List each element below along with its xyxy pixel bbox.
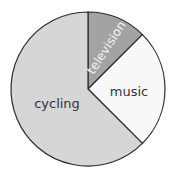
pie-chart: televisionmusiccycling	[0, 0, 171, 180]
slice-label-music: music	[110, 84, 148, 99]
slice-label-cycling: cycling	[34, 96, 80, 111]
